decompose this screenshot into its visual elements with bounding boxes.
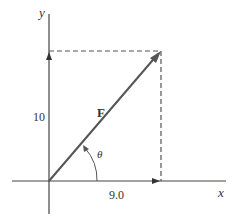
angle-arc [85, 148, 97, 181]
y-axis-label: y [39, 6, 45, 19]
angle-label: θ [97, 149, 102, 160]
vector-diagram: y x F θ 10 9.0 [0, 0, 238, 220]
x-component-value: 9.0 [109, 189, 124, 201]
y-component-value: 10 [33, 111, 45, 123]
x-axis-label: x [218, 186, 224, 199]
y-component-arrowhead-icon [46, 52, 52, 60]
angle-arc-arrowhead-icon [83, 145, 89, 152]
x-component-arrowhead-icon [152, 178, 160, 184]
vector-label: F [97, 106, 105, 119]
